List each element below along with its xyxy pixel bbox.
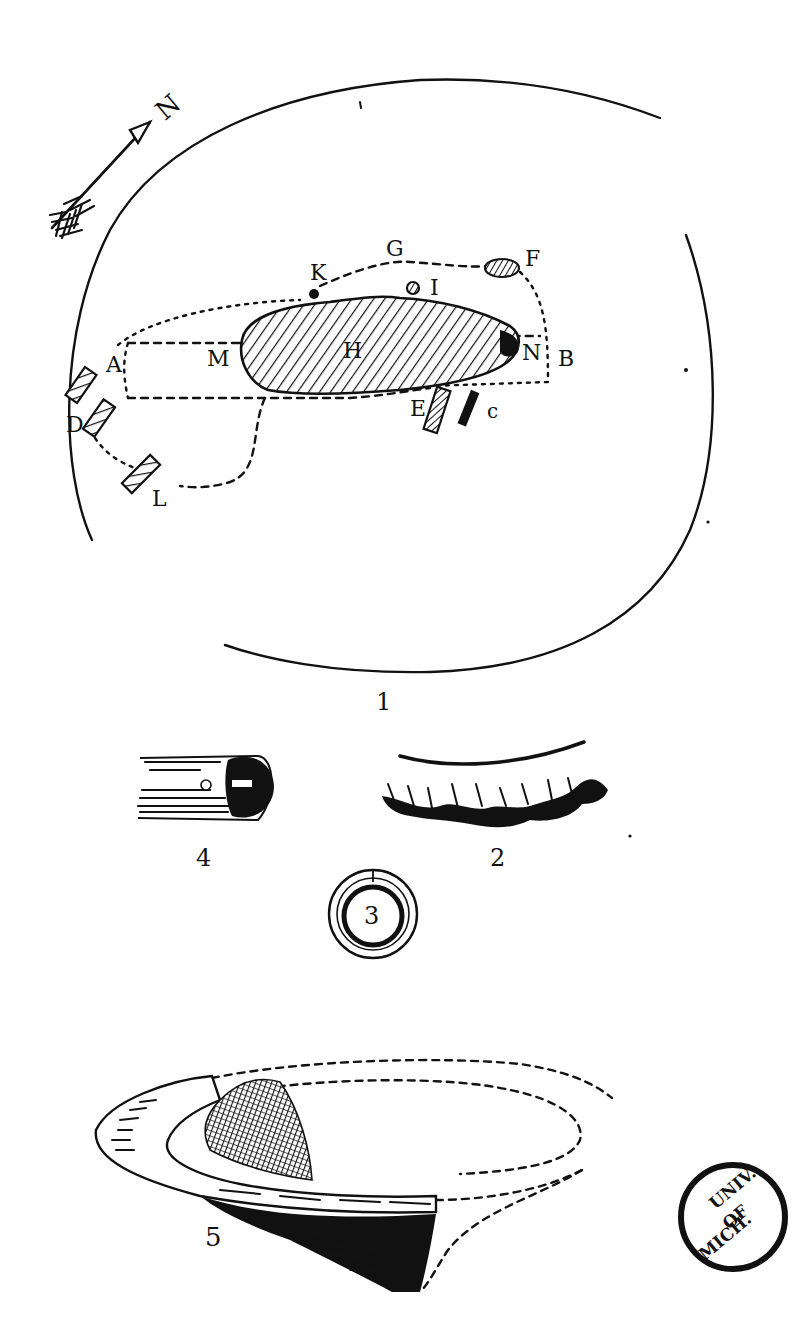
library-stamp: UNIV. OF MICH. (681, 1163, 785, 1269)
enclosure-left (124, 343, 128, 398)
central-mass-H (241, 297, 519, 394)
figure-2-fringe: 2 (382, 742, 632, 872)
figure-number-4: 4 (196, 844, 211, 872)
label-I: I (430, 275, 439, 300)
stone-F (485, 259, 519, 277)
speck (684, 368, 688, 372)
speck (360, 102, 361, 108)
label-H: H (343, 338, 362, 363)
post-K (309, 289, 319, 299)
figure-number-1: 1 (376, 688, 391, 716)
slab-D (83, 399, 115, 437)
figure-1-site-plan: N A B c D E F G H I K L M N (50, 79, 713, 716)
speck (628, 834, 631, 837)
figure-4-cylinder: 4 (138, 756, 274, 872)
slab-E (424, 387, 451, 433)
speck (706, 520, 709, 523)
figure-number-5: 5 (205, 1222, 222, 1252)
enclosure-top (320, 262, 488, 286)
label-E: E (410, 396, 426, 421)
figure-number-2: 2 (490, 844, 505, 872)
north-label: N (150, 88, 187, 126)
label-N: N (522, 340, 541, 365)
enclosure-southwest (180, 398, 265, 487)
label-F: F (525, 246, 540, 271)
figure-5-vessel: 5 (96, 1060, 612, 1292)
figure-number-3: 3 (364, 902, 379, 930)
slab-C (458, 390, 480, 427)
post-I (407, 282, 419, 294)
label-C: c (487, 399, 498, 423)
label-A: A (105, 352, 123, 377)
label-M: M (207, 346, 230, 371)
label-D: D (66, 412, 84, 437)
north-arrow-icon (50, 122, 150, 238)
label-G: G (386, 236, 404, 261)
plate-illustration: N A B c D E F G H I K L M N (0, 0, 793, 1331)
label-K: K (310, 260, 327, 285)
label-L: L (152, 486, 167, 511)
label-B: B (558, 346, 574, 371)
enclosure-west (95, 438, 140, 470)
figure-3-ring: 3 (329, 870, 417, 958)
